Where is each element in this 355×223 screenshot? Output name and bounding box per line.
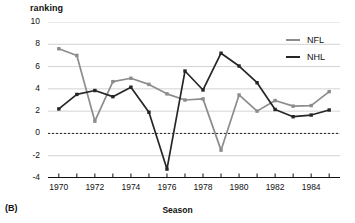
y-tick-label: -4 (14, 172, 40, 182)
figure-panel-b: ranking 1086420-2-4 19701972197419761978… (0, 0, 355, 223)
y-tick-label: 10 (14, 16, 40, 26)
x-tick-label: 1972 (75, 182, 115, 192)
x-tick-label: 1982 (255, 182, 295, 192)
y-tick-label: 0 (14, 127, 40, 137)
legend-item-nfl[interactable]: NFL (286, 31, 325, 48)
legend: NFLNHL (286, 31, 325, 65)
x-tick-label: 1978 (183, 182, 223, 192)
x-tick-label: 1976 (147, 182, 187, 192)
y-tick-label: 6 (14, 61, 40, 71)
y-tick-label: 8 (14, 38, 40, 48)
y-tick-label: 2 (14, 105, 40, 115)
y-tick-label: 4 (14, 83, 40, 93)
x-tick-label: 1974 (111, 182, 151, 192)
y-axis-title: ranking (30, 3, 63, 13)
x-tick-label: 1984 (291, 182, 331, 192)
legend-item-nhl[interactable]: NHL (286, 48, 325, 65)
legend-label: NHL (307, 52, 325, 62)
legend-swatch-nfl (286, 39, 300, 41)
legend-label: NFL (307, 35, 324, 45)
x-tick-label: 1980 (219, 182, 259, 192)
y-tick-label: -2 (14, 150, 40, 160)
data-series-layer (57, 47, 331, 171)
panel-label: (B) (5, 203, 18, 213)
x-axis-title: Season (0, 205, 355, 215)
x-tick-label: 1970 (39, 182, 79, 192)
legend-swatch-nhl (286, 56, 300, 58)
